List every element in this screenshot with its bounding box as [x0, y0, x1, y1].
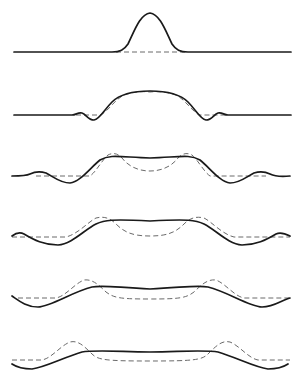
- panel-4-solid-curve: [12, 220, 290, 245]
- wave-evolution-figure: [0, 0, 303, 382]
- panel-1: [14, 13, 291, 52]
- panel-2: [14, 91, 291, 120]
- panel-5-solid-curve: [12, 286, 290, 307]
- panel-3: [12, 154, 290, 183]
- panel-2-solid-curve: [14, 91, 291, 120]
- panel-1-solid-curve: [14, 13, 291, 52]
- panel-3-dashed-curve: [36, 154, 266, 176]
- panel-4: [12, 217, 290, 245]
- panel-2-dashed-curve: [76, 92, 228, 115]
- panel-3-solid-curve: [12, 156, 290, 183]
- panel-6: [12, 342, 290, 369]
- panel-5: [12, 280, 290, 307]
